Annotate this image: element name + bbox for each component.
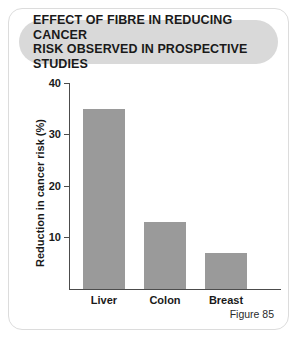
- y-axis-tick-20: [64, 186, 69, 187]
- y-axis-tick-label-40: 40: [15, 77, 61, 89]
- y-axis-tick-10: [64, 237, 69, 238]
- y-axis-tick-40: [64, 83, 69, 84]
- x-axis-label-liver: Liver: [83, 294, 125, 306]
- bar-breast: [205, 253, 247, 289]
- bar-liver: [83, 109, 125, 289]
- y-axis-title: Reduction in cancer risk (%): [34, 98, 46, 288]
- y-axis-line: [69, 83, 70, 290]
- y-axis-tick-30: [64, 134, 69, 135]
- bar-colon: [144, 222, 186, 289]
- x-axis-line: [69, 289, 281, 290]
- figure-caption: Figure 85: [230, 308, 274, 320]
- x-axis-label-colon: Colon: [144, 294, 186, 306]
- chart-plot-area: 40 30 20 10 Reduction in cancer risk (%)…: [9, 9, 288, 329]
- figure-card: EFFECT OF FIBRE IN REDUCING CANCER RISK …: [8, 8, 289, 330]
- x-axis-label-breast: Breast: [205, 294, 247, 306]
